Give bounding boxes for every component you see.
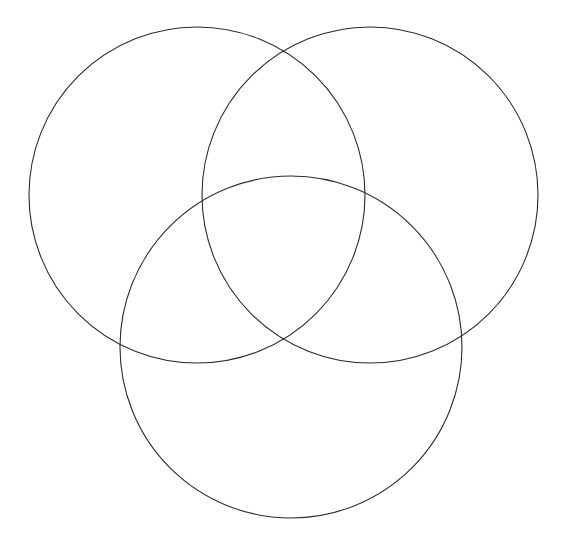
- venn-diagram-canvas: [0, 0, 567, 547]
- venn-diagram-svg: [0, 0, 567, 547]
- diagram-background: [0, 0, 567, 547]
